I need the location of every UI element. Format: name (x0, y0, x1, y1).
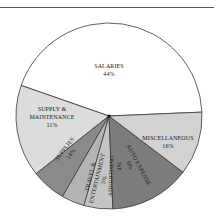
pct-salaries: 44% (103, 71, 114, 77)
label-supply-maintenance-2: MAINTENANCE (29, 114, 74, 120)
pct-miscellaneous: 16% (162, 143, 173, 149)
pct-advertising: 4% (116, 162, 122, 170)
pie-center-dot (107, 114, 110, 117)
label-miscellaneous: MISCELLANEOUS (142, 135, 193, 141)
label-supply-maintenance-1: SUPPLY & (38, 106, 67, 112)
pie-chart: SALARIES 44% MISCELLANEOUS 16% SUPPLY & … (0, 0, 214, 224)
pct-supply-maintenance: 11% (46, 122, 57, 128)
label-salaries: SALARIES (94, 63, 123, 69)
